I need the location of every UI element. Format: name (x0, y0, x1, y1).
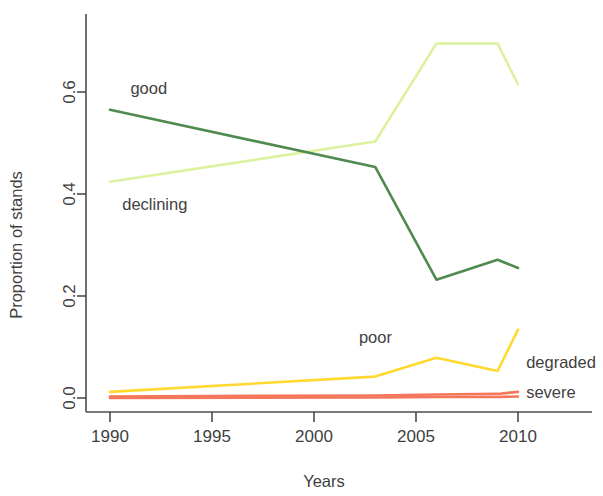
y-axis-tick-label: 0.0 (60, 386, 79, 410)
series-label-good: good (130, 79, 167, 97)
series-line-poor (110, 330, 518, 392)
series-label-declining: declining (122, 195, 187, 213)
series-lines (110, 44, 518, 398)
x-axis-tick-label: 2005 (397, 427, 435, 446)
y-axis-tick-label: 0.6 (60, 80, 79, 104)
series-label-severe: severe (526, 383, 576, 401)
x-axis-tick-label: 2010 (499, 427, 537, 446)
x-axis-tick-label: 1990 (91, 427, 129, 446)
x-axis-tick-label: 1995 (193, 427, 231, 446)
line-chart: 0.00.20.40.619901995200020052010 declini… (0, 0, 603, 496)
y-axis-title: Proportion of stands (7, 171, 25, 319)
series-line-declining (110, 44, 518, 182)
series-label-poor: poor (359, 328, 393, 346)
series-line-severe (110, 396, 518, 398)
series-label-degraded: degraded (526, 353, 596, 371)
y-axis-tick-label: 0.4 (60, 182, 79, 206)
x-axis-tick-label: 2000 (295, 427, 333, 446)
y-axis-tick-label: 0.2 (60, 284, 79, 308)
chart-container: 0.00.20.40.619901995200020052010 declini… (0, 0, 603, 496)
x-axis-title: Years (303, 472, 345, 490)
